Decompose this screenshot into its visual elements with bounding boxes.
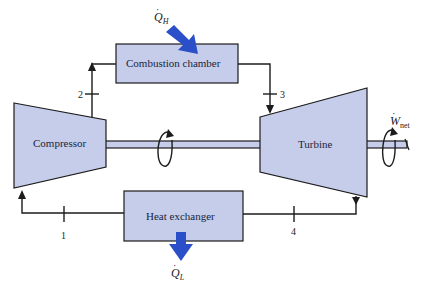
state-4-label: 4	[291, 226, 296, 237]
state-1-label: 1	[61, 230, 66, 241]
heat-in-label: ·QH	[154, 10, 168, 26]
flow-line-1	[22, 192, 124, 213]
flow-line-4	[243, 196, 356, 214]
turbine-label: Turbine	[298, 138, 332, 150]
state-2-label: 2	[78, 89, 83, 100]
state-3-label: 3	[280, 89, 285, 100]
heat-out-label: ·QL	[171, 266, 184, 282]
work-net-label: ·Wnet	[390, 114, 410, 130]
flow-line-2	[92, 64, 116, 117]
heat-exchanger-label: Heat exchanger	[146, 210, 215, 222]
rotation-icon-shaft	[158, 132, 172, 166]
flow-line-3	[238, 64, 270, 112]
compressor-label: Compressor	[33, 137, 86, 149]
combustion-chamber-label: Combustion chamber	[126, 57, 220, 69]
